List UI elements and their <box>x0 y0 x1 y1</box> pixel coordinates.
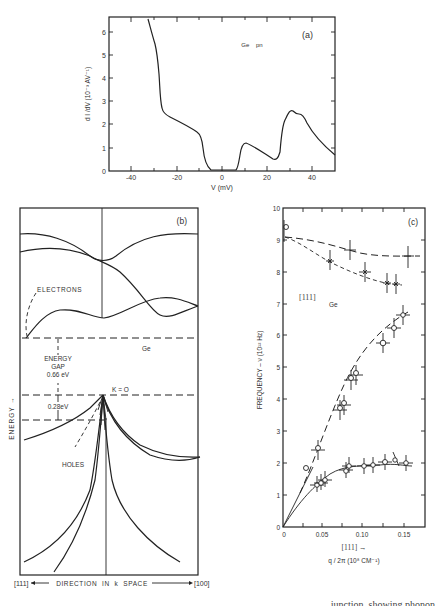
panel-c-xlabel-direction: [111] → <box>341 543 366 552</box>
ytick-label: 7 <box>276 301 280 308</box>
panel-c-to-curve <box>285 237 402 285</box>
ytick-label: 6 <box>102 29 106 36</box>
xtick-label: 0 <box>282 531 286 538</box>
xtick-label: 0.10 <box>356 531 369 538</box>
ytick-label: 1 <box>276 492 280 499</box>
panel-c-xlabel: q / 2π (10⁸ CM⁻¹) <box>328 557 379 565</box>
data-point-la <box>376 333 390 353</box>
data-point-to <box>359 262 371 282</box>
ytick-label: 4 <box>276 396 280 403</box>
xtick-label: -20 <box>172 174 182 181</box>
panel-a-xtick-labels: -40 -20 0 20 40 <box>126 174 316 181</box>
panel-b-splitoff-label: 0.28eV <box>48 403 69 410</box>
right-arrow-icon <box>189 581 193 585</box>
ytick-label: 3 <box>102 98 106 105</box>
ytick-label: 9 <box>276 237 280 244</box>
panel-c-label: (c) <box>408 217 418 227</box>
figure-caption-fragment: ... junction, showing phonon <box>321 599 435 606</box>
ytick-label: 6 <box>276 332 280 339</box>
data-point-ta <box>366 457 380 473</box>
data-point-lo <box>284 220 289 242</box>
panel-b-x-right-label: [100] <box>194 580 210 588</box>
data-point-lo <box>344 240 356 260</box>
panel-b-gap-label-1: ENERGY <box>44 355 72 362</box>
ytick-label: 10 <box>273 205 281 212</box>
panel-c-ta-curve <box>283 464 412 527</box>
xtick-label: 0.15 <box>398 531 411 538</box>
panel-b-valence-bands <box>24 395 200 572</box>
panel-c-ge-label: Ge <box>329 301 338 308</box>
ytick-label: 2 <box>102 121 106 128</box>
panel-b: (b) ELECTRONS Ge ENERGY GAP 0.66 eV 0.28… <box>8 208 210 588</box>
panel-b-gap-label-3: 0.66 eV <box>47 371 70 378</box>
xtick-label: -40 <box>126 174 136 181</box>
panel-b-ge-label: Ge <box>142 345 151 352</box>
panel-a-ytick-labels: 0 1 2 3 4 5 6 <box>102 29 106 175</box>
panel-c-direction-label: [111] <box>299 293 316 302</box>
panel-b-label: (b) <box>177 216 188 226</box>
ytick-label: 2 <box>276 460 280 467</box>
data-point-to <box>383 273 391 293</box>
panel-c-ylabel: FREQUENCY – ν (10¹² Hz) <box>256 331 264 410</box>
panel-a-yticks <box>109 32 335 148</box>
data-point-ta <box>393 452 399 466</box>
left-arrow-icon <box>31 581 35 585</box>
panel-b-holes-label: HOLES <box>62 461 85 468</box>
panel-a-xticks <box>131 17 312 171</box>
panel-c: 0 1 2 3 4 5 6 7 8 9 10 0 0.05 0.10 0.15 … <box>256 205 425 565</box>
ytick-label: 1 <box>102 145 106 152</box>
panel-c-yticks <box>283 240 425 495</box>
panel-c-data-points <box>284 220 415 492</box>
panel-a-frame <box>109 17 335 171</box>
panel-c-ytick-labels: 0 1 2 3 4 5 6 7 8 9 10 <box>273 205 281 531</box>
ytick-label: 5 <box>276 364 280 371</box>
panel-a-ylabel: d I /dV (10⁻³ AV⁻¹) <box>84 67 92 121</box>
panel-c-curves <box>283 237 420 527</box>
data-point-to <box>392 274 400 294</box>
data-point-la <box>396 305 410 325</box>
panel-b-k0-label: K = O <box>112 386 129 393</box>
data-point-lo <box>402 246 414 268</box>
ytick-label: 0 <box>102 168 106 175</box>
data-point-ta <box>399 455 413 471</box>
ytick-label: 5 <box>102 52 106 59</box>
panel-b-electrons-label: ELECTRONS <box>37 286 82 293</box>
data-point-la <box>387 318 401 338</box>
panel-b-frame <box>20 208 198 575</box>
ytick-label: 8 <box>276 269 280 276</box>
xtick-label: 20 <box>263 174 271 181</box>
panel-a-annotation: Ge pn <box>241 42 262 48</box>
data-point-la <box>337 395 351 415</box>
panel-b-holes-pointer <box>75 402 100 447</box>
figure-canvas: -40 -20 0 20 40 0 1 2 3 4 5 6 V (mV) d I… <box>0 0 435 606</box>
panel-a: -40 -20 0 20 40 0 1 2 3 4 5 6 V (mV) d I… <box>84 17 335 192</box>
ytick-label: 4 <box>102 75 106 82</box>
panel-b-xlabel: DIRECTION IN k SPACE <box>56 580 148 587</box>
panel-c-xtick-labels: 0 0.05 0.10 0.15 <box>282 531 411 538</box>
ytick-label: 0 <box>276 524 280 531</box>
panel-b-electrons-pointer <box>26 293 36 336</box>
xtick-label: 0.05 <box>316 531 329 538</box>
panel-b-x-left-label: [111] <box>14 580 29 588</box>
data-point-ta <box>378 454 392 470</box>
panel-b-gap-label-2: GAP <box>51 363 65 370</box>
xtick-label: 40 <box>308 174 316 181</box>
ytick-label: 3 <box>276 428 280 435</box>
data-point-la <box>304 466 309 471</box>
panel-b-ylabel: ENERGY → <box>8 396 15 440</box>
data-point-to <box>326 250 334 270</box>
panel-c-la-initial-line <box>283 467 313 527</box>
data-point-ta <box>357 458 371 474</box>
xtick-label: 0 <box>220 174 224 181</box>
panel-a-label: (a) <box>302 30 313 40</box>
data-point-la <box>311 440 325 460</box>
panel-a-xlabel: V (mV) <box>211 184 233 192</box>
